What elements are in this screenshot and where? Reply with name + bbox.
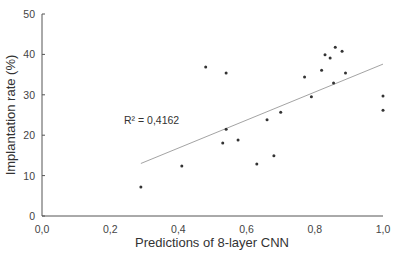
data-point [320, 69, 323, 72]
data-point [329, 57, 332, 60]
data-point [310, 95, 313, 98]
x-tick-label: 0,2 [103, 223, 118, 235]
y-tick-label: 20 [23, 129, 35, 141]
y-tick-label: 40 [23, 48, 35, 60]
y-tick-label: 50 [23, 8, 35, 20]
scatter-chart: 01020304050 0,00,20,40,60,81,0 R² = 0,41… [0, 0, 394, 259]
data-point [204, 65, 207, 68]
data-point [332, 82, 335, 85]
r-squared-annotation: R² = 0,4162 [124, 114, 179, 126]
x-tick-label: 0,4 [171, 223, 186, 235]
x-axis-ticks: 0,00,20,40,60,81,0 [35, 223, 391, 235]
x-tick-label: 0,8 [307, 223, 322, 235]
x-tick-label: 1,0 [376, 223, 391, 235]
y-tick-label: 10 [23, 170, 35, 182]
data-point [303, 76, 306, 79]
data-point [139, 185, 142, 188]
data-point [334, 46, 337, 49]
x-tick-label: 0,0 [35, 223, 50, 235]
data-point [180, 164, 183, 167]
data-point [382, 95, 385, 98]
data-point [225, 128, 228, 131]
data-point [221, 141, 224, 144]
data-point [382, 109, 385, 112]
data-point [225, 71, 228, 74]
y-tick-label: 0 [29, 210, 35, 222]
data-point [341, 50, 344, 53]
data-point [266, 118, 269, 121]
data-point [344, 71, 347, 74]
y-tick-label: 30 [23, 89, 35, 101]
x-tick-label: 0,6 [239, 223, 254, 235]
x-axis-title: Predictions of 8-layer CNN [135, 235, 289, 250]
data-point [279, 111, 282, 114]
y-axis-title: Implantation rate (%) [3, 55, 18, 176]
data-point [255, 162, 258, 165]
data-point [324, 53, 327, 56]
data-point [272, 154, 275, 157]
data-point [237, 139, 240, 142]
